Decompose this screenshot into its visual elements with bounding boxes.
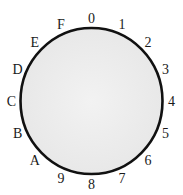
ring-circle [21, 28, 163, 174]
ring-label-b: B [13, 126, 22, 141]
ring-label-6: 6 [145, 153, 152, 168]
ring-label-3: 3 [162, 62, 169, 77]
ring-label-8: 8 [88, 177, 95, 192]
ring-label-4: 4 [168, 94, 175, 109]
ring-label-e: E [31, 35, 40, 50]
ring-label-f: F [57, 17, 65, 32]
ring-label-7: 7 [119, 171, 126, 186]
ring-label-9: 9 [57, 171, 64, 186]
ring-label-c: C [7, 94, 16, 109]
ring-label-2: 2 [145, 35, 152, 50]
ring-label-a: A [30, 153, 41, 168]
ring-label-d: D [13, 62, 23, 77]
ring-label-5: 5 [162, 126, 169, 141]
ring-label-1: 1 [119, 17, 126, 32]
hex-ring-diagram: 0123456789ABCDEF [0, 0, 183, 195]
ring-label-0: 0 [88, 11, 95, 26]
